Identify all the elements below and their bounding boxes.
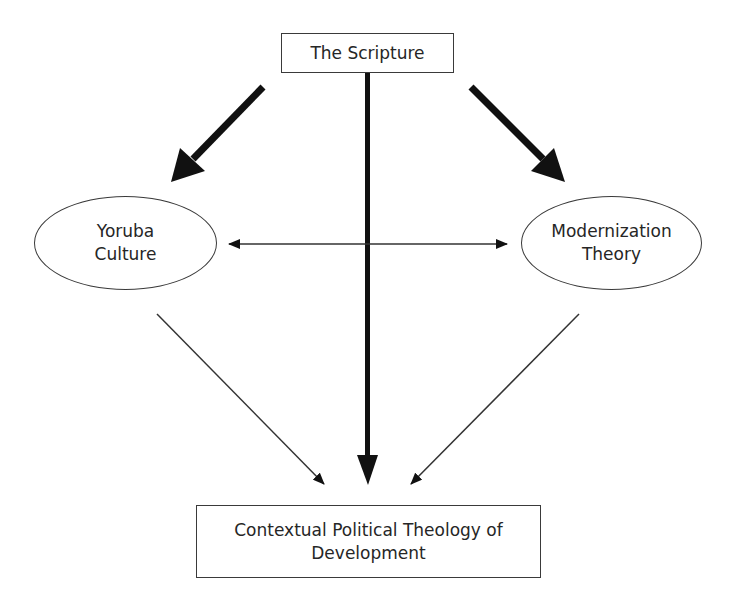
- node-result-line1: Contextual Political Theology of: [234, 519, 502, 541]
- arrow-modernization-to-result: [411, 314, 579, 484]
- diagram-canvas: The Scripture Yoruba Culture Modernizati…: [0, 0, 730, 612]
- node-modernization-line1: Modernization: [551, 220, 671, 243]
- node-result-line2: Development: [311, 542, 425, 564]
- node-yoruba-line1: Yoruba: [97, 220, 155, 243]
- node-modernization-line2: Theory: [582, 243, 641, 266]
- node-yoruba-line2: Culture: [95, 243, 157, 266]
- node-scripture: The Scripture: [281, 33, 454, 73]
- node-contextual-political-theology: Contextual Political Theology of Develop…: [196, 505, 541, 578]
- arrow-yoruba-to-result: [157, 314, 324, 484]
- arrow-scripture-to-modernization: [471, 87, 565, 182]
- node-yoruba-culture: Yoruba Culture: [34, 196, 217, 290]
- arrow-scripture-to-result: [357, 72, 378, 485]
- node-scripture-label: The Scripture: [310, 42, 424, 64]
- node-modernization-theory: Modernization Theory: [521, 196, 702, 290]
- arrow-scripture-to-yoruba: [171, 87, 263, 182]
